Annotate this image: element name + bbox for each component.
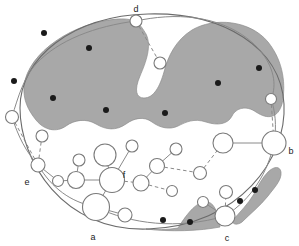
network-edge [15,123,35,159]
right-shaded-strip [232,168,281,225]
network-edge [103,191,106,196]
network-edge [204,151,217,168]
network-node[interactable] [6,111,19,124]
sample-point-marker [237,198,243,204]
sample-point-marker [252,187,258,193]
sample-point-marker [162,110,168,116]
network-node-a[interactable] [83,194,110,221]
network-node[interactable] [170,143,182,155]
sample-point-marker [187,219,193,225]
network-edge [39,142,41,158]
label-c: c [225,233,230,243]
network-node[interactable] [213,133,233,153]
network-node-c[interactable] [215,206,235,226]
network-node[interactable] [133,175,149,191]
network-node[interactable] [68,172,85,189]
network-node[interactable] [126,140,138,152]
sample-point-marker [41,30,47,36]
network-node[interactable] [36,130,48,142]
sample-point-marker [11,78,17,84]
network-node[interactable] [53,176,64,187]
network-node[interactable] [118,208,132,222]
network-node[interactable] [150,159,165,174]
network-edge [77,166,78,172]
network-node-b[interactable] [262,131,286,155]
sample-point-marker [160,217,166,223]
network-node-f[interactable] [100,168,125,193]
network-node-e[interactable] [31,158,45,172]
diagram-canvas: dbefac [0,0,299,246]
network-node-d[interactable] [130,15,142,27]
sample-point-marker [103,107,109,113]
label-b: b [288,146,293,156]
label-a: a [90,232,95,242]
sample-point-marker [86,45,92,51]
network-node[interactable] [220,186,233,199]
network-edge [43,169,53,177]
label-d: d [133,4,138,14]
network-edge [149,185,167,190]
network-edge [118,151,129,169]
label-e: e [24,177,29,187]
network-node[interactable] [198,197,209,208]
network-node[interactable] [154,57,166,69]
sample-point-marker [256,65,262,71]
network-edge [124,181,133,182]
network-node[interactable] [73,154,85,166]
label-f: f [123,170,126,180]
sample-point-marker [50,95,56,101]
network-node[interactable] [167,186,178,197]
schematic-diagram-svg: dbefac [0,0,299,246]
shaded-regions-layer [24,19,284,231]
network-node[interactable] [194,167,207,180]
upper-shaded-habitat [24,19,284,130]
sample-point-marker [215,80,221,86]
network-edge [146,171,151,177]
network-edge [163,153,172,161]
network-node[interactable] [266,94,277,105]
network-node[interactable] [94,144,116,166]
network-edge [164,167,193,172]
